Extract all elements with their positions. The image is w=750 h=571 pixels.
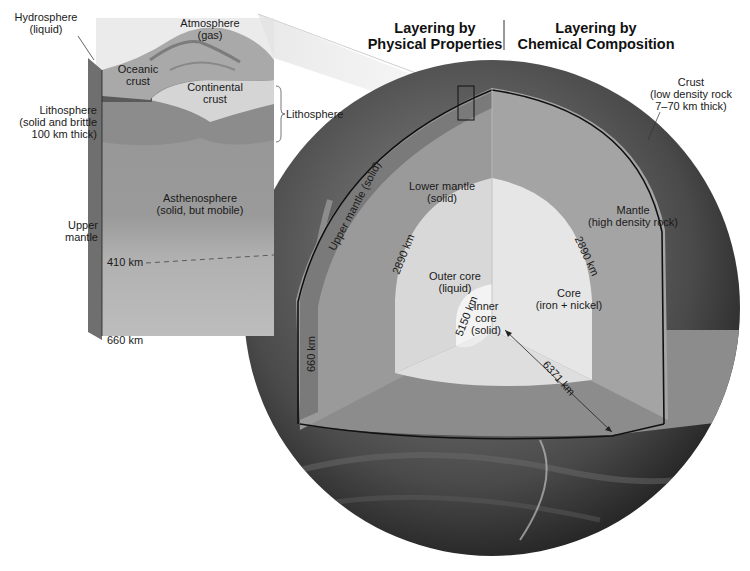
label-lithosphere-left: Lithosphere (solid and brittle 100 km th…	[0, 104, 97, 140]
label-text: crust	[108, 75, 168, 87]
label-text: Atmosphere	[170, 17, 250, 29]
lithosphere-bracket	[276, 86, 285, 142]
label-text: Upper	[40, 219, 98, 231]
label-text: Lithosphere	[0, 104, 97, 116]
label-core: Core (iron + nickel)	[527, 287, 611, 311]
label-text: (gas)	[170, 29, 250, 41]
label-text: (high density rock)	[578, 216, 688, 228]
label-text: Core	[527, 287, 611, 299]
label-text: Outer core	[420, 270, 490, 282]
label-text: (liquid)	[6, 23, 86, 35]
label-text: 7–70 km thick)	[636, 100, 746, 112]
label-atmosphere: Atmosphere (gas)	[170, 17, 250, 41]
label-text: crust	[175, 93, 255, 105]
label-text: (liquid)	[420, 282, 490, 294]
label-depth-660-block: 660 km	[107, 334, 143, 346]
label-upper-mantle: Upper mantle	[40, 219, 98, 243]
label-crust: Crust (low density rock 7–70 km thick)	[636, 76, 746, 112]
heading-chemical-line1: Layering by	[514, 20, 678, 36]
label-text: Crust	[636, 76, 746, 88]
label-text: (iron + nickel)	[527, 299, 611, 311]
heading-chemical: Layering by Chemical Composition	[514, 20, 678, 52]
label-continental-crust: Continental crust	[175, 81, 255, 105]
label-lower-mantle: Lower mantle (solid)	[402, 180, 482, 204]
label-hydrosphere: Hydrosphere (liquid)	[6, 11, 86, 35]
label-text: Lower mantle	[402, 180, 482, 192]
heading-physical-line2: Physical Properties	[365, 36, 505, 52]
label-oceanic-crust: Oceanic crust	[108, 63, 168, 87]
label-text: Hydrosphere	[6, 11, 86, 23]
label-text: (low density rock	[636, 88, 746, 100]
label-lithosphere-bracket: Lithosphere	[286, 108, 344, 120]
label-text: mantle	[40, 231, 98, 243]
label-depth-410: 410 km	[107, 256, 143, 268]
heading-physical: Layering by Physical Properties	[365, 20, 505, 52]
label-text: (solid and brittle	[0, 116, 97, 128]
heading-physical-line1: Layering by	[365, 20, 505, 36]
label-mantle: Mantle (high density rock)	[578, 204, 688, 228]
label-depth-660-globe: 660 km	[305, 336, 317, 372]
label-text: Continental	[175, 81, 255, 93]
label-text: Asthenosphere	[148, 192, 252, 204]
label-outer-core: Outer core (liquid)	[420, 270, 490, 294]
label-text: (solid)	[466, 324, 506, 336]
label-text: 100 km thick)	[0, 128, 97, 140]
label-text: (solid)	[402, 192, 482, 204]
label-asthenosphere: Asthenosphere (solid, but mobile)	[148, 192, 252, 216]
label-text: Mantle	[578, 204, 688, 216]
label-text: (solid, but mobile)	[148, 204, 252, 216]
earth-interior-diagram: Layering by Physical Properties Layering…	[0, 0, 750, 571]
label-text: Oceanic	[108, 63, 168, 75]
heading-chemical-line2: Chemical Composition	[514, 36, 678, 52]
